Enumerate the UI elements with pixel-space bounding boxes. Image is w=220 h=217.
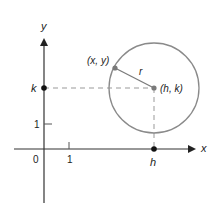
center-label: (h, k) — [160, 83, 183, 94]
y-tick-label: 1 — [34, 119, 40, 130]
radius-label: r — [139, 66, 143, 77]
origin-label: 0 — [33, 154, 39, 165]
point-label: (x, y) — [87, 55, 109, 66]
point-on-circle — [112, 65, 117, 70]
radius-line — [115, 68, 154, 88]
center-point — [151, 85, 156, 90]
k-point — [41, 85, 47, 91]
h-point — [151, 146, 157, 152]
x-axis-label: x — [200, 142, 207, 154]
h-label: h — [150, 156, 156, 168]
y-axis-label: y — [40, 20, 48, 32]
circle-diagram: y x k h 0 1 1 (x, y) (h, k) r — [0, 0, 220, 217]
x-tick-label: 1 — [67, 154, 73, 165]
k-label: k — [31, 82, 37, 94]
